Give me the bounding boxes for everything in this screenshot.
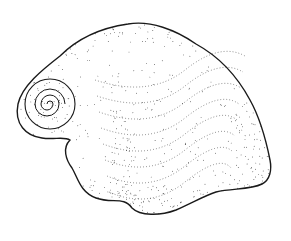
stipple-dot (236, 115, 237, 116)
stipple-dot (274, 122, 275, 123)
stipple-dot (57, 121, 58, 122)
stipple-dot (114, 162, 115, 163)
stipple-dot (275, 112, 276, 113)
stipple-dot (237, 39, 238, 40)
stipple-dot (190, 151, 191, 152)
stipple-dot (275, 58, 276, 59)
stipple-dot (122, 190, 123, 191)
stipple-dot (264, 62, 265, 63)
stipple-dot (245, 36, 246, 37)
stipple-dot (275, 68, 276, 69)
stipple-dot (225, 173, 226, 174)
stipple-dot (271, 208, 272, 209)
stipple-dot (77, 216, 78, 217)
stipple-dot (164, 116, 165, 117)
stipple-dot (62, 214, 63, 215)
stipple-dot (263, 44, 264, 45)
stipple-dot (27, 190, 28, 191)
stipple-dot (259, 156, 260, 157)
stipple-dot (250, 215, 251, 216)
stipple-dot (233, 211, 234, 212)
stipple-dot (124, 160, 125, 161)
stipple-dot (16, 100, 17, 101)
stipple-dot (133, 203, 134, 204)
stipple-dot (69, 21, 70, 22)
stipple-dot (252, 29, 253, 30)
stipple-dot (195, 51, 196, 52)
stipple-dot (268, 76, 269, 77)
stipple-dot (99, 138, 100, 139)
stipple-dot (36, 147, 37, 148)
stipple-dot (273, 205, 274, 206)
stipple-dot (260, 45, 261, 46)
stipple-dot (230, 118, 231, 119)
stipple-dot (15, 27, 16, 28)
stipple-dot (263, 52, 264, 53)
stipple-dot (167, 37, 168, 38)
growth-line (95, 51, 245, 87)
stipple-dot (85, 21, 86, 22)
stipple-dot (198, 147, 199, 148)
stipple-dot (274, 25, 275, 26)
stipple-dot (171, 198, 172, 199)
stipple-dot (256, 103, 257, 104)
stipple-dot (272, 185, 273, 186)
stipple-dot (160, 101, 161, 102)
stipple-dot (272, 88, 273, 89)
stipple-dot (268, 196, 269, 197)
stipple-dot (227, 28, 228, 29)
stipple-dot (130, 203, 131, 204)
stipple-dot (72, 21, 73, 22)
stipple-dot (114, 153, 115, 154)
stipple-dot (263, 191, 264, 192)
stipple-dot (181, 187, 182, 188)
stipple-dot (118, 209, 119, 210)
stipple-dot (242, 126, 243, 127)
stipple-dot (272, 191, 273, 192)
stipple-dot (113, 216, 114, 217)
stipple-dot (152, 30, 153, 31)
stipple-dot (110, 193, 111, 194)
stipple-dot (247, 184, 248, 185)
stipple-dot (69, 106, 70, 107)
stipple-dot (259, 31, 260, 32)
stipple-dot (253, 191, 254, 192)
stipple-dot (262, 158, 263, 159)
stipple-dot (90, 187, 91, 188)
stipple-dot (113, 121, 114, 122)
stipple-dot (127, 129, 128, 130)
stipple-dot (186, 216, 187, 217)
stipple-dot (110, 190, 111, 191)
stipple-dot (130, 212, 131, 213)
stipple-dot (274, 209, 275, 210)
stipple-dot (242, 174, 243, 175)
stipple-dot (270, 102, 271, 103)
stipple-dot (118, 73, 119, 74)
stipple-dot (50, 187, 51, 188)
stipple-dot (185, 19, 186, 20)
stipple-dot (121, 125, 122, 126)
stipple-dot (179, 210, 180, 211)
stipple-dot (171, 91, 172, 92)
stipple-dot (244, 197, 245, 198)
stipple-dot (270, 58, 271, 59)
stipple-dot (242, 106, 243, 107)
stipple-dot (114, 85, 115, 86)
stipple-dot (229, 184, 230, 185)
stipple-dot (253, 112, 254, 113)
stipple-dot (110, 110, 111, 111)
stipple-dot (225, 105, 226, 106)
stipple-dot (39, 201, 40, 202)
stipple-dot (83, 186, 84, 187)
stipple-dot (106, 35, 107, 36)
stipple-dot (190, 22, 191, 23)
stipple-dot (109, 209, 110, 210)
stipple-dot (100, 100, 101, 101)
stipple-dot (269, 26, 270, 27)
stipple-dot (265, 77, 266, 78)
stipple-dot (42, 26, 43, 27)
stipple-dot (123, 176, 124, 177)
stipple-dot (253, 37, 254, 38)
stipple-dot (253, 179, 254, 180)
stipple-dot (275, 87, 276, 88)
